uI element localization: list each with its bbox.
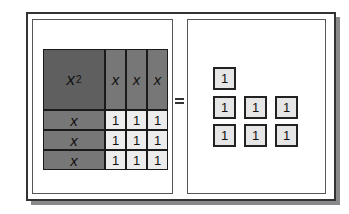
x-squared-exponent: 2 (76, 74, 82, 85)
unit-tile: 1 (127, 151, 146, 169)
x-strip-vertical: x (148, 50, 167, 109)
x-strip-vertical: x (106, 50, 125, 109)
unit-tile: 1 (213, 124, 236, 147)
unit-label: 1 (112, 133, 119, 148)
unit-tile: 1 (213, 96, 236, 119)
unit-tile: 1 (244, 96, 267, 119)
unit-tile: 1 (106, 131, 125, 149)
x-label: x (112, 71, 120, 88)
unit-tile: 1 (127, 111, 146, 129)
x-squared-tile: x2 (44, 50, 104, 109)
unit-label: 1 (154, 113, 161, 128)
unit-label: 1 (133, 113, 140, 128)
x-label: x (70, 152, 78, 169)
x-strip-horizontal: x (44, 111, 104, 129)
x-strip-horizontal: x (44, 151, 104, 169)
unit-tile: 1 (106, 111, 125, 129)
unit-label: 1 (154, 133, 161, 148)
unit-tile: 1 (106, 151, 125, 169)
unit-label: 1 (252, 128, 259, 143)
algebra-tile-grid: x2 x x x x x x 1 1 1 1 1 1 1 1 1 (43, 49, 168, 170)
unit-label: 1 (112, 153, 119, 168)
unit-label: 1 (221, 100, 228, 115)
unit-label: 1 (221, 128, 228, 143)
x-strip-horizontal: x (44, 131, 104, 149)
unit-label: 1 (154, 153, 161, 168)
left-panel: x2 x x x x x x 1 1 1 1 1 1 1 1 1 (32, 19, 173, 194)
unit-tile: 1 (148, 111, 167, 129)
unit-label: 1 (283, 128, 290, 143)
diagram-frame: x2 x x x x x x 1 1 1 1 1 1 1 1 1 1 1 1 1… (26, 12, 336, 201)
unit-label: 1 (133, 153, 140, 168)
unit-tile: 1 (275, 124, 298, 147)
x-label: x (70, 112, 78, 129)
unit-label: 1 (133, 133, 140, 148)
x-squared-base: x (66, 70, 75, 90)
equals-sign (175, 98, 184, 104)
unit-tile: 1 (148, 131, 167, 149)
unit-label: 1 (112, 113, 119, 128)
x-label: x (154, 71, 162, 88)
unit-tile: 1 (244, 124, 267, 147)
unit-tile: 1 (213, 67, 236, 90)
unit-label: 1 (252, 100, 259, 115)
unit-tile: 1 (275, 96, 298, 119)
x-strip-vertical: x (127, 50, 146, 109)
unit-label: 1 (283, 100, 290, 115)
x-label: x (133, 71, 141, 88)
unit-tile: 1 (148, 151, 167, 169)
unit-label: 1 (221, 71, 228, 86)
right-panel: 1 1 1 1 1 1 1 (187, 19, 326, 194)
unit-tile: 1 (127, 131, 146, 149)
x-label: x (70, 132, 78, 149)
